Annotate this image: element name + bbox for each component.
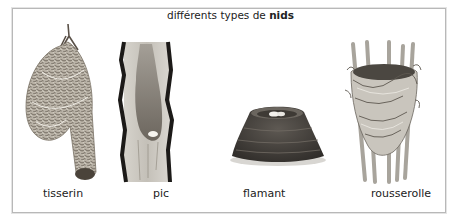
woodpecker-nest-icon <box>118 40 178 185</box>
title-emphasis: nids <box>269 9 294 21</box>
weaver-nest-icon <box>22 22 102 187</box>
title-prefix: différents types de <box>167 9 266 21</box>
label-flamingo: flamant <box>243 187 285 200</box>
label-reed-warbler: rousserolle <box>371 187 431 200</box>
reed-warbler-nest-icon <box>343 40 423 185</box>
flamingo-nest-icon <box>228 100 328 170</box>
label-woodpecker: pic <box>153 187 169 200</box>
diagram-title: différents types de nids <box>0 9 461 21</box>
label-weaver: tisserin <box>43 187 83 200</box>
